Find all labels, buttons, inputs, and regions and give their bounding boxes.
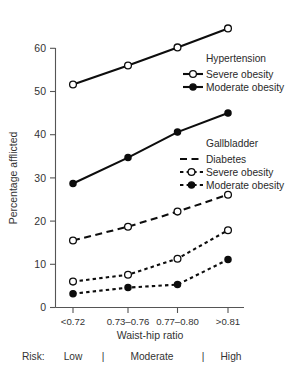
data-point [174,208,181,215]
y-axis-ticks [50,48,56,307]
series-gallbladder-diabetes [70,191,232,244]
y-tick-label-0: 0 [40,301,46,313]
x-tick-label-1: <0.72 [61,316,85,327]
data-point [174,44,181,51]
series-line-hypertension-moderate [73,113,228,183]
legend-swatch-open-circle-icon [188,169,195,176]
series-gallbladder-severe-obesity [70,227,232,285]
y-tick-label-60: 60 [34,42,46,54]
risk-axis: Risk: Low | Moderate | High [22,351,241,362]
y-tick-label-20: 20 [34,215,46,227]
risk-separator-2: | [202,351,205,362]
data-point [125,223,132,230]
y-tick-label-10: 10 [34,258,46,270]
x-tick-label-3: 0.77–0.80 [156,316,199,327]
y-axis-title: Percentage afflicted [7,132,19,225]
data-point [125,62,132,69]
risk-band-high: High [221,351,242,362]
x-axis-title: Waist-hip ratio [117,329,184,341]
data-point [174,282,180,288]
data-point [70,278,77,285]
legend-entry-gallbladder-moderate: Moderate obesity [180,180,285,191]
data-point [225,227,232,234]
risk-band-low: Low [64,351,83,362]
legend-label: Diabetes [206,154,246,165]
legend-hypertension: Hypertension Severe obesity Moderate obe… [183,53,285,93]
legend-swatch-filled-circle-icon [188,182,194,188]
y-tick-label-40: 40 [34,128,46,140]
series-gallbladder-moderate-obesity [70,257,231,297]
legend-entry-gallbladder-severe: Severe obesity [180,167,274,178]
series-line-gallbladder-severe [73,230,228,281]
risk-separator-1: | [102,351,105,362]
legend-heading-gallbladder: Gallbladder [206,138,259,149]
y-tick-label-30: 30 [34,172,46,184]
series-line-diabetes [73,195,228,241]
data-point [125,271,132,278]
legend-label: Moderate obesity [206,180,285,191]
x-tick-label-2: 0.73–0.76 [107,316,150,327]
data-point [225,110,231,116]
risk-band-moderate: Moderate [130,351,173,362]
data-point [225,191,232,198]
legend-swatch-filled-circle-icon [190,84,196,90]
y-tick-label-50: 50 [34,85,46,97]
x-tick-label-4: >0.81 [216,316,240,327]
legend-entry-gallbladder-diabetes: Diabetes [180,154,246,165]
legend-label: Moderate obesity [206,82,285,93]
data-point [70,291,76,297]
risk-axis-label: Risk: [22,351,45,362]
x-axis-tick-labels: <0.72 0.73–0.76 0.77–0.80 >0.81 [61,316,240,327]
legend-swatch-open-circle-icon [190,71,197,78]
legend-label: Severe obesity [206,69,274,80]
y-axis-tick-labels: 0 10 20 30 40 50 60 [34,42,46,313]
legend-gallbladder: Gallbladder Diabetes Severe obesity Mode… [180,138,285,191]
legend-label: Severe obesity [206,167,274,178]
legend-heading-hypertension: Hypertension [206,53,266,64]
data-point [125,155,131,161]
data-point [70,237,77,244]
legend-entry-hypertension-severe: Severe obesity [183,69,274,80]
x-axis-ticks [73,308,228,314]
series-line-gallbladder-moderate [73,260,228,294]
legend-entry-hypertension-moderate: Moderate obesity [183,82,285,93]
data-point [125,285,131,291]
data-point [174,255,181,262]
series-line-hypertension-severe [73,28,228,84]
data-point [225,257,231,263]
data-point [225,25,232,32]
chart-svg: 0 10 20 30 40 50 60 <0.72 0.73–0.76 0.77… [0,0,300,371]
chart-container: 0 10 20 30 40 50 60 <0.72 0.73–0.76 0.77… [0,0,300,371]
data-point [174,129,180,135]
data-point [70,81,77,88]
data-point [70,180,76,186]
